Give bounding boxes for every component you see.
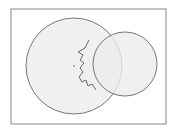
venn-diagram bbox=[0, 0, 177, 130]
small-circle bbox=[93, 32, 157, 96]
center-dot bbox=[73, 65, 75, 67]
